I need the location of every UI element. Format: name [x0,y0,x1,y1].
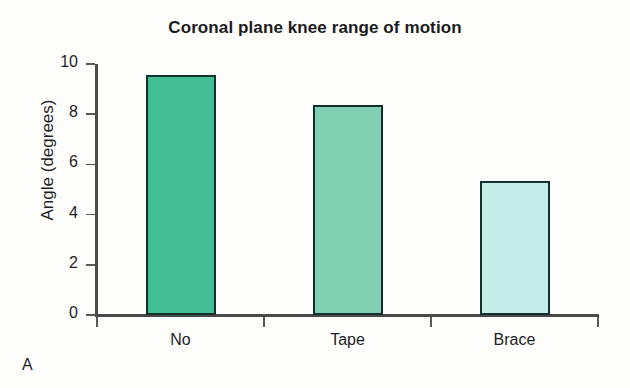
y-tick-label-8: 8 [0,103,78,121]
y-tick-label-10: 10 [0,53,78,71]
y-tick-0 [86,314,95,316]
x-tick-3 [597,317,599,327]
y-tick-6 [86,164,95,166]
bar-tape [313,105,383,315]
y-tick-8 [86,113,95,115]
x-tick-1 [263,317,265,327]
y-tick-label-4: 4 [0,204,78,222]
bar-brace [480,181,550,315]
chart-title: Coronal plane knee range of motion [0,18,630,38]
y-tick-10 [86,63,95,65]
bar-no [146,75,216,315]
y-tick-label-6: 6 [0,153,78,171]
x-tick-label-no: No [121,331,241,349]
figure-panel-a: Coronal plane knee range of motion Angle… [0,0,630,388]
panel-label: A [22,356,33,374]
plot-area [97,64,598,315]
y-tick-4 [86,214,95,216]
x-tick-0 [96,317,98,327]
x-tick-2 [430,317,432,327]
y-tick-label-0: 0 [0,304,78,322]
x-tick-label-tape: Tape [288,331,408,349]
x-tick-label-brace: Brace [455,331,575,349]
y-tick-2 [86,264,95,266]
y-tick-label-2: 2 [0,254,78,272]
